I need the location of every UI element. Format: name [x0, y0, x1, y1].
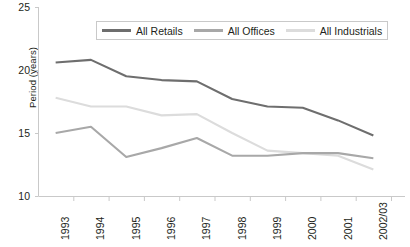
legend-item-label: All Industrials [320, 25, 382, 37]
legend-item[interactable]: All Retails [102, 25, 183, 37]
legend-item-label: All Retails [136, 25, 183, 37]
series-line-all-offices [56, 127, 374, 159]
legend-item[interactable]: All Industrials [286, 25, 382, 37]
legend-line-swatch-icon [286, 29, 315, 32]
legend-line-swatch-icon [102, 29, 131, 32]
legend-line-swatch-icon [194, 29, 223, 32]
series-line-all-industrials [56, 98, 374, 170]
line-chart: Period (years) 25201510 1993199419951996… [0, 0, 410, 247]
chart-legend: All RetailsAll OfficesAll Industrials [96, 21, 388, 40]
legend-item[interactable]: All Offices [194, 25, 275, 37]
legend-item-label: All Offices [228, 25, 275, 37]
